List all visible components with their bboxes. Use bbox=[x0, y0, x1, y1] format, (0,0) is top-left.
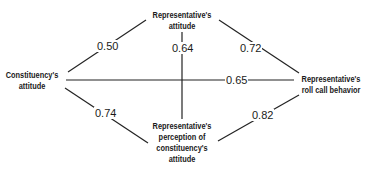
node-representatives-attitude: Representative's attitude bbox=[141, 10, 223, 32]
node-label-line: Representative's bbox=[141, 10, 223, 21]
node-constituency-attitude: Constituency's attitude bbox=[0, 70, 65, 92]
node-label-line: attitude bbox=[141, 154, 223, 165]
coefficient-label: 0.50 bbox=[96, 40, 119, 52]
coefficient-label: 0.64 bbox=[171, 42, 194, 54]
node-label-line: Representative's bbox=[141, 121, 223, 132]
coefficient-label: 0.72 bbox=[239, 42, 262, 54]
node-label-line: Representative's bbox=[292, 74, 371, 85]
coefficient-label: 0.65 bbox=[225, 74, 248, 86]
node-roll-call-behavior: Representative's roll call behavior bbox=[292, 74, 371, 96]
node-label-line: perception of bbox=[141, 132, 223, 143]
node-perception-of-constituency: Representative's perception of constitue… bbox=[141, 121, 223, 165]
node-label-line: attitude bbox=[141, 21, 223, 32]
node-label-line: attitude bbox=[0, 81, 65, 92]
node-label-line: Constituency's bbox=[0, 70, 65, 81]
node-label-line: constituency's bbox=[141, 143, 223, 154]
node-label-line: roll call behavior bbox=[292, 85, 371, 96]
coefficient-label: 0.74 bbox=[94, 107, 117, 119]
coefficient-label: 0.82 bbox=[251, 109, 274, 121]
